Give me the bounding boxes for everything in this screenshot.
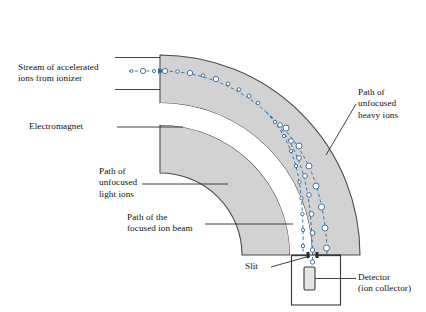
diagram-canvas: Stream of accelerated ions from ionizer … xyxy=(0,0,426,312)
label-detector-line1: Detector xyxy=(358,272,411,283)
label-electromagnet-line1: Electromagnet xyxy=(29,121,83,132)
detector-housing xyxy=(292,255,341,305)
label-stream-line1: Stream of accelerated xyxy=(18,62,99,73)
label-focused-line1: Path of the xyxy=(127,212,193,223)
label-slit-line1: Slit xyxy=(245,261,258,272)
mass-spectrometer-svg xyxy=(0,0,426,312)
label-stream-line2: ions from ionizer xyxy=(18,73,99,84)
label-heavy-line3: heavy ions xyxy=(358,110,398,121)
label-unfocused-heavy-ions: Path of unfocused heavy ions xyxy=(358,87,398,121)
leader-heavy-ions xyxy=(326,104,356,155)
label-unfocused-light-ions: Path of unfocused light ions xyxy=(99,166,137,200)
label-electromagnet: Electromagnet xyxy=(29,121,83,132)
label-light-line1: Path of xyxy=(99,166,137,177)
label-detector: Detector (ion collector) xyxy=(358,272,411,295)
detector-plate xyxy=(304,267,315,290)
label-heavy-line2: unfocused xyxy=(358,98,398,109)
label-light-line3: light ions xyxy=(99,189,137,200)
label-detector-line2: (ion collector) xyxy=(358,283,411,294)
label-slit: Slit xyxy=(245,261,258,272)
label-heavy-line1: Path of xyxy=(358,87,398,98)
label-focused-ion-beam: Path of the focused ion beam xyxy=(127,212,193,235)
slit-jaw-right xyxy=(316,252,319,258)
label-stream-of-ions: Stream of accelerated ions from ionizer xyxy=(18,62,99,85)
label-focused-line2: focused ion beam xyxy=(127,223,193,234)
label-light-line2: unfocused xyxy=(99,177,137,188)
